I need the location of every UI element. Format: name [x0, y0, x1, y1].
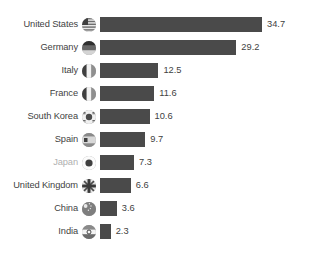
chart-row: India 2.3 — [0, 220, 309, 243]
value-bar — [100, 132, 145, 147]
bar-container: 7.3 — [100, 151, 309, 174]
bar-container: 29.2 — [100, 36, 309, 59]
value-label: 12.5 — [163, 66, 181, 75]
chart-row: United States 34.7 — [0, 13, 309, 36]
horizontal-bar-chart: United States 34.7 Germany 29.2 Italy 12… — [0, 0, 309, 256]
value-label: 3.6 — [122, 204, 135, 213]
category-label: Germany — [0, 43, 78, 52]
chart-row: South Korea 10.6 — [0, 105, 309, 128]
value-bar — [100, 17, 262, 32]
category-label: China — [0, 204, 78, 213]
value-bar — [100, 201, 117, 216]
value-label: 29.2 — [241, 43, 259, 52]
value-bar — [100, 178, 131, 193]
bar-container: 2.3 — [100, 220, 309, 243]
flag-germany-icon — [82, 41, 96, 55]
bar-container: 10.6 — [100, 105, 309, 128]
category-label: France — [0, 89, 78, 98]
category-label: Italy — [0, 66, 78, 75]
flag-japan-icon — [82, 156, 96, 170]
flag-china-icon — [82, 202, 96, 216]
bar-container: 34.7 — [100, 13, 309, 36]
flag-united-kingdom-icon — [82, 179, 96, 193]
value-label: 9.7 — [150, 135, 163, 144]
flag-india-icon — [82, 225, 96, 239]
value-bar — [100, 155, 134, 170]
category-label: Japan — [0, 158, 78, 167]
chart-row: China 3.6 — [0, 197, 309, 220]
flag-united-states-icon — [82, 18, 96, 32]
chart-row: United Kingdom 6.6 — [0, 174, 309, 197]
chart-row: Japan 7.3 — [0, 151, 309, 174]
flag-spain-icon — [82, 133, 96, 147]
chart-row: Germany 29.2 — [0, 36, 309, 59]
bar-container: 9.7 — [100, 128, 309, 151]
chart-row: Spain 9.7 — [0, 128, 309, 151]
flag-south-korea-icon — [82, 110, 96, 124]
category-label: United States — [0, 20, 78, 29]
value-label: 7.3 — [139, 158, 152, 167]
chart-row: Italy 12.5 — [0, 59, 309, 82]
flag-italy-icon — [82, 64, 96, 78]
category-label: United Kingdom — [0, 181, 78, 190]
value-label: 2.3 — [116, 227, 129, 236]
category-label: India — [0, 227, 78, 236]
flag-france-icon — [82, 87, 96, 101]
value-bar — [100, 86, 154, 101]
value-bar — [100, 224, 111, 239]
value-label: 6.6 — [136, 181, 149, 190]
category-label: South Korea — [0, 112, 78, 121]
value-bar — [100, 109, 150, 124]
value-bar — [100, 63, 158, 78]
bar-container: 3.6 — [100, 197, 309, 220]
category-label: Spain — [0, 135, 78, 144]
bar-container: 12.5 — [100, 59, 309, 82]
chart-row: France 11.6 — [0, 82, 309, 105]
value-label: 11.6 — [159, 89, 176, 98]
value-label: 10.6 — [155, 112, 173, 121]
value-label: 34.7 — [267, 20, 285, 29]
bar-container: 11.6 — [100, 82, 309, 105]
bar-container: 6.6 — [100, 174, 309, 197]
value-bar — [100, 40, 236, 55]
